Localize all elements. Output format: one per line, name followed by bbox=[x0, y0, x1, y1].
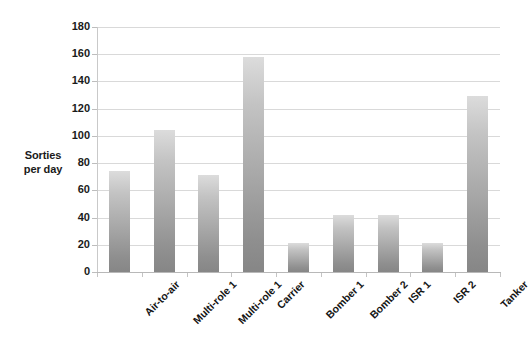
bar-bomber-1-4 bbox=[288, 243, 309, 272]
x-axis-tick-mark bbox=[187, 273, 188, 277]
x-axis-label: Bomber 1 bbox=[323, 278, 366, 321]
x-axis-tick-mark bbox=[410, 273, 411, 277]
y-axis-tick-label: 180 bbox=[60, 20, 90, 32]
y-axis-tick-label: 100 bbox=[60, 129, 90, 141]
y-axis-tick-label: 120 bbox=[60, 102, 90, 114]
y-axis-tick-label: 80 bbox=[60, 156, 90, 168]
bar-air-to-air-0 bbox=[109, 171, 130, 272]
x-axis-tick-mark bbox=[455, 273, 456, 277]
bar-multi-role-1-2 bbox=[198, 175, 219, 272]
y-axis-tick-label: 40 bbox=[60, 211, 90, 223]
gridline bbox=[97, 81, 500, 82]
x-axis-tick-mark bbox=[97, 273, 98, 277]
x-axis-tick-mark bbox=[366, 273, 367, 277]
x-axis-label: Tanker bbox=[497, 278, 529, 310]
plot-area bbox=[97, 27, 500, 272]
x-axis-label: ISR 2 bbox=[451, 278, 478, 305]
x-axis-label: Air-to-air bbox=[142, 278, 182, 318]
gridline bbox=[97, 54, 500, 55]
x-axis-label: ISR 1 bbox=[406, 278, 433, 305]
x-axis-label: Bomber 2 bbox=[367, 278, 410, 321]
y-axis-tick-label: 60 bbox=[60, 183, 90, 195]
bar-carrier-3 bbox=[243, 57, 264, 272]
gridline bbox=[97, 27, 500, 28]
bar-multi-role-1-1 bbox=[154, 130, 175, 272]
x-axis-category-labels: Air-to-airMulti-role 1Multi-role 1Carrie… bbox=[97, 278, 501, 356]
y-axis-tick-labels: 020406080100120140160180 bbox=[58, 27, 90, 272]
bar-tanker-8 bbox=[467, 96, 488, 272]
x-axis-tick-mark bbox=[500, 273, 501, 277]
x-axis-tick-mark bbox=[276, 273, 277, 277]
y-axis-line bbox=[97, 27, 98, 273]
y-axis-tick-label: 160 bbox=[60, 47, 90, 59]
y-axis-tick-label: 20 bbox=[60, 238, 90, 250]
bar-isr-2-7 bbox=[422, 243, 443, 272]
bar-bomber-2-5 bbox=[333, 215, 354, 272]
x-axis-tick-mark bbox=[321, 273, 322, 277]
bar-isr-1-6 bbox=[378, 215, 399, 272]
x-axis-label: Multi-role 1 bbox=[191, 278, 239, 326]
gridline bbox=[97, 109, 500, 110]
y-axis-tick-label: 0 bbox=[60, 265, 90, 277]
x-axis-tick-mark bbox=[142, 273, 143, 277]
y-axis-tick-label: 140 bbox=[60, 74, 90, 86]
x-axis-tick-mark bbox=[231, 273, 232, 277]
